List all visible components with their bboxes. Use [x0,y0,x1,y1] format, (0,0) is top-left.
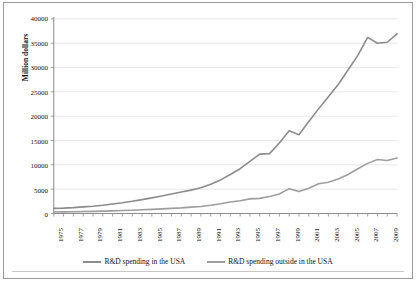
legend-item-outside-usa: R&D spending outside in the USA [207,257,332,266]
chart-legend: R&D spending in the USA R&D spending out… [4,257,412,266]
legend-swatch-outside-usa [207,261,225,263]
legend-swatch-usa [83,261,101,263]
legend-label-outside-usa: R&D spending outside in the USA [228,257,332,266]
chart-frame: Million dollars 050001000015000200002500… [3,2,413,279]
line-chart-plot [4,3,412,278]
legend-item-usa: R&D spending in the USA [83,257,185,266]
legend-divider [12,271,404,272]
legend-label-usa: R&D spending in the USA [104,257,185,266]
